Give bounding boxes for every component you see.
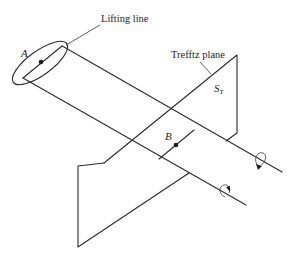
- point-a-label: A: [20, 47, 28, 59]
- trefftz-plane-label: Trefftz plane: [171, 49, 225, 60]
- trefftz-plane-leader: [200, 62, 211, 74]
- trefftz-plane-lower-edge: [78, 163, 189, 247]
- point-b-marker: [174, 143, 179, 148]
- arrowhead-icon: [226, 186, 230, 192]
- lifting-line-label: Lifting line: [101, 13, 149, 24]
- trailing-vortex-upper: [62, 46, 282, 172]
- lifting-line-leader: [66, 25, 100, 45]
- trailing-vortex-lower: [23, 78, 246, 205]
- rotation-arrow-upper: [256, 153, 266, 170]
- lifting-line-diagram: A B Lifting line Trefftz plane ST: [0, 0, 298, 260]
- point-b-label: B: [165, 130, 172, 142]
- trefftz-plane-upper-edge: [104, 55, 237, 163]
- surface-st-label: ST: [214, 82, 225, 96]
- point-a-marker: [39, 60, 44, 65]
